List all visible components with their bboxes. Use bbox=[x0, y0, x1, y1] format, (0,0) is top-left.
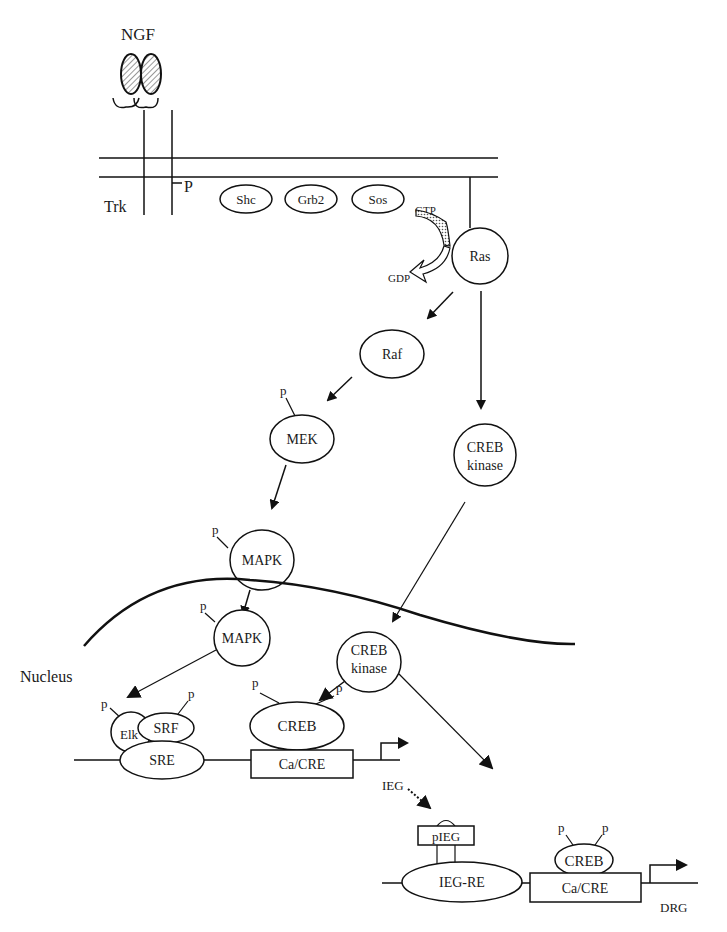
ca-cre-1-label: Ca/CRE bbox=[279, 757, 326, 772]
creb-kinase-cyto-line1: CREB bbox=[467, 440, 504, 455]
ieg-to-pieg-arrow bbox=[408, 789, 430, 808]
ras-node: Ras GTP GDP bbox=[388, 177, 508, 284]
srf-label: SRF bbox=[154, 721, 179, 736]
signaling-diagram: NGF P Trk Shc Grb2 Sos Ras GTP GDP bbox=[0, 0, 727, 932]
mek-to-mapk-arrow bbox=[272, 465, 286, 508]
creb2-label: CREB bbox=[564, 853, 603, 869]
ca-cre-2-label: Ca/CRE bbox=[562, 881, 609, 896]
raf-to-mek-arrow bbox=[328, 377, 352, 400]
tss-arrow-1-icon bbox=[398, 737, 409, 749]
pieg-label: pIEG bbox=[432, 829, 460, 844]
mapk-cyto-label: MAPK bbox=[242, 553, 282, 568]
cell-membrane bbox=[99, 158, 498, 177]
ras-to-raf-arrow bbox=[428, 292, 453, 318]
ras-label: Ras bbox=[470, 249, 491, 264]
promoter-2: pIEG IEG-RE p p CREB Ca/CRE bbox=[382, 820, 698, 902]
ngf-label: NGF bbox=[121, 25, 155, 44]
sre-label: SRE bbox=[149, 753, 175, 768]
mapk-cyto-phospho-label: p bbox=[212, 522, 219, 537]
trk-label: Trk bbox=[104, 198, 127, 215]
drg-label: DRG bbox=[660, 900, 687, 915]
creb-kinase-cytoplasm-node: CREB kinase bbox=[454, 424, 516, 486]
grb2-label: Grb2 bbox=[298, 192, 325, 207]
creb2-phospho-right: p bbox=[602, 820, 609, 835]
creb-kinase-nucleus-node: CREB kinase bbox=[337, 632, 401, 692]
mek-phospho-label: p bbox=[280, 383, 287, 398]
creb-kinase-nuclear-translocation-arrow bbox=[393, 502, 465, 621]
nuclear-envelope bbox=[84, 579, 575, 646]
creb-kinase-nuc-line2: kinase bbox=[351, 661, 387, 676]
gdp-label: GDP bbox=[388, 272, 410, 284]
mek-node: p MEK bbox=[270, 383, 334, 463]
tss-arrow-2-icon bbox=[676, 859, 688, 871]
creb-kinase-nuc-line1: CREB bbox=[351, 643, 388, 658]
elk-phospho-label: p bbox=[101, 696, 108, 711]
shc-label: Shc bbox=[236, 192, 256, 207]
creb1-label: CREB bbox=[277, 718, 316, 734]
ieg-label: IEG bbox=[382, 778, 404, 793]
mapk-nucleus-node: p MAPK bbox=[200, 598, 270, 666]
srf-phospho-label: p bbox=[188, 686, 195, 701]
mapk-nuc-phospho-label: p bbox=[200, 598, 207, 613]
raf-node: Raf bbox=[360, 330, 424, 378]
sos-label: Sos bbox=[369, 192, 388, 207]
mek-label: MEK bbox=[286, 432, 317, 447]
ngf-ligand: NGF bbox=[113, 25, 161, 108]
creb2-phospho-left: p bbox=[558, 820, 565, 835]
receptor-phospho-label: P bbox=[184, 178, 193, 195]
mapk-to-elk-arrow bbox=[128, 650, 216, 697]
creb1-phospho-left: p bbox=[252, 675, 259, 690]
raf-label: Raf bbox=[382, 347, 403, 362]
creb-kinase-cyto-line2: kinase bbox=[467, 458, 503, 473]
nucleus-label: Nucleus bbox=[20, 668, 72, 685]
elk-label: Elk bbox=[120, 727, 139, 742]
trk-receptor: P Trk bbox=[104, 110, 193, 215]
ieg-re-label: IEG-RE bbox=[439, 875, 485, 890]
mapk-nuc-label: MAPK bbox=[222, 631, 262, 646]
adaptor-proteins: Shc Grb2 Sos bbox=[220, 185, 404, 213]
creb-kinase-to-drg-creb-arrow bbox=[399, 674, 492, 768]
creb1-phospho-right: p bbox=[336, 680, 343, 695]
